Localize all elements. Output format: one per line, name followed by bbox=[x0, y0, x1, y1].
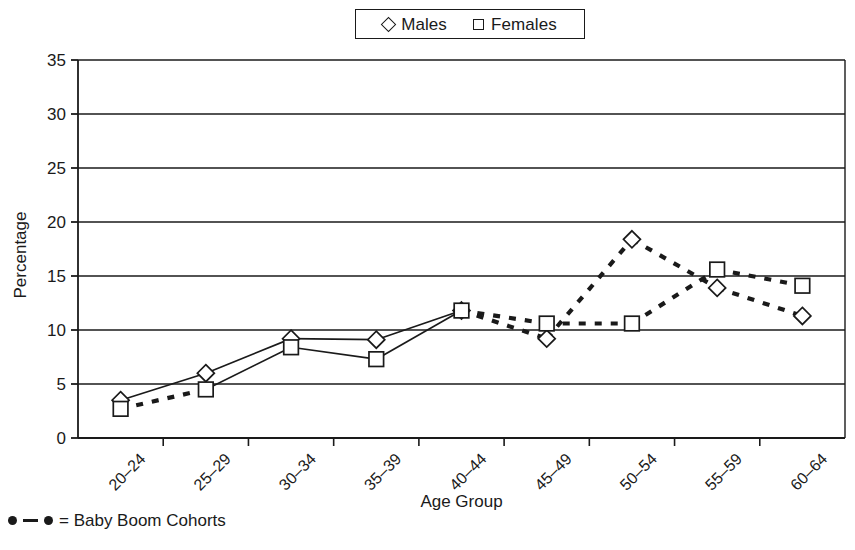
y-tick-label: 10 bbox=[47, 321, 66, 340]
y-tick-label: 0 bbox=[57, 429, 66, 448]
chart-plot-area: 05101520253035 20–2425–2930–3435–3940–44… bbox=[0, 0, 855, 510]
data-point-square bbox=[284, 340, 299, 355]
data-point-square bbox=[369, 352, 384, 367]
y-tick-label: 25 bbox=[47, 159, 66, 178]
data-line-segment-dashed bbox=[121, 389, 206, 408]
y-tick-label: 5 bbox=[57, 375, 66, 394]
x-tick-label: 60–64 bbox=[787, 450, 831, 494]
y-axis-ticks-group bbox=[71, 60, 78, 438]
x-tick-label: 40–44 bbox=[446, 450, 490, 494]
dot-icon-left bbox=[8, 516, 17, 525]
x-tick-labels-group: 20–2425–2930–3435–3940–4445–4950–5455–59… bbox=[105, 450, 830, 494]
x-tick-label: 55–59 bbox=[702, 450, 746, 494]
data-point-diamond bbox=[709, 279, 726, 296]
data-point-diamond bbox=[538, 330, 555, 347]
y-tick-label: 15 bbox=[47, 267, 66, 286]
data-markers-group bbox=[112, 231, 811, 416]
y-tick-label: 35 bbox=[47, 51, 66, 70]
footnote: = Baby Boom Cohorts bbox=[8, 512, 226, 529]
data-point-square bbox=[113, 402, 128, 417]
x-tick-label: 35–39 bbox=[361, 450, 405, 494]
data-line-segment-solid bbox=[291, 339, 376, 340]
data-line-segment-dashed bbox=[717, 288, 802, 316]
gridlines-group bbox=[78, 60, 845, 384]
axis-frame-group bbox=[78, 60, 845, 438]
x-tick-label: 25–29 bbox=[190, 450, 234, 494]
dot-icon-right bbox=[44, 516, 53, 525]
data-line-segment-dashed bbox=[462, 311, 547, 339]
data-point-diamond bbox=[623, 231, 640, 248]
data-point-diamond bbox=[794, 307, 811, 324]
y-tick-label: 30 bbox=[47, 105, 66, 124]
y-axis-title: Percentage bbox=[11, 212, 30, 299]
data-line-segment-solid bbox=[291, 347, 376, 359]
chart-figure: Males Females 05101520253035 20–2425–293… bbox=[0, 0, 855, 550]
x-axis-ticks-group bbox=[163, 438, 760, 446]
data-point-square bbox=[539, 316, 554, 331]
data-line-segment-dashed bbox=[547, 239, 632, 338]
data-line-segment-dashed bbox=[462, 311, 547, 324]
data-point-diamond bbox=[368, 331, 385, 348]
x-tick-label: 30–34 bbox=[276, 450, 320, 494]
data-point-square bbox=[710, 262, 725, 277]
data-line-segment-dashed bbox=[632, 239, 717, 288]
data-point-square bbox=[454, 303, 469, 318]
data-point-square bbox=[795, 278, 810, 293]
y-tick-labels-group: 05101520253035 bbox=[47, 51, 66, 448]
x-tick-label: 50–54 bbox=[617, 450, 661, 494]
data-point-diamond bbox=[197, 365, 214, 382]
y-tick-label: 20 bbox=[47, 213, 66, 232]
line-icon bbox=[23, 519, 38, 522]
x-axis-title: Age Group bbox=[420, 492, 502, 510]
x-tick-label: 45–49 bbox=[531, 450, 575, 494]
data-point-square bbox=[199, 382, 214, 397]
data-point-square bbox=[625, 316, 640, 331]
footnote-label: = Baby Boom Cohorts bbox=[59, 512, 226, 529]
x-tick-label: 20–24 bbox=[105, 450, 149, 494]
data-line-segment-dashed bbox=[717, 270, 802, 286]
data-line-segment-dashed bbox=[632, 270, 717, 324]
data-line-segment-solid bbox=[121, 373, 206, 400]
